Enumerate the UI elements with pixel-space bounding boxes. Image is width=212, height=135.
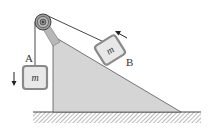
arrow-down-icon <box>12 72 17 86</box>
pulley-incline-diagram: m A m B <box>0 0 212 135</box>
block-a: m <box>23 66 47 89</box>
block-a-mass-label: m <box>31 72 38 83</box>
block-a-label: A <box>25 52 33 64</box>
block-b: m <box>94 34 126 65</box>
ground <box>33 112 201 123</box>
pulley <box>35 14 51 30</box>
block-b-label: B <box>126 56 133 68</box>
